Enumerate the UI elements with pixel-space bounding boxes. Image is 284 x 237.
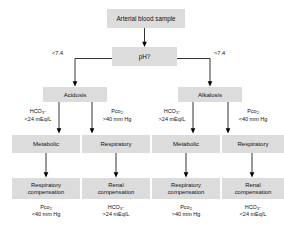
criterion-alkalosis-respiratory: Pco2 <40 mm Hg <box>233 108 273 123</box>
node-label: Alkalosis <box>198 91 222 98</box>
node-label: pH? <box>139 53 151 60</box>
node-respiratory-acidosis: Respiratory <box>82 135 150 153</box>
node-label: Respiratory <box>100 140 131 147</box>
node-label: Respiratory <box>237 140 268 147</box>
outcome-value-4: HCO3– <24 mEq/L <box>222 204 284 219</box>
node-label: Respiratorycompensation <box>168 182 205 196</box>
outcome-analyte: Pco2 <box>180 204 192 210</box>
node-label: Metabolic <box>33 140 59 147</box>
node-label: Respiratorycompensation <box>28 182 65 196</box>
criterion-analyte: HCO3– <box>30 108 47 114</box>
node-label: Renalcompensation <box>235 182 272 196</box>
node-label: Renalcompensation <box>98 182 135 196</box>
outcome-analyte: HCO3– <box>245 204 262 210</box>
node-respiratory-alkalosis: Respiratory <box>222 135 284 153</box>
node-ph-decision: pH? <box>112 47 177 66</box>
criterion-acidosis-metabolic: HCO3– <24 mEq/L <box>20 108 56 123</box>
node-metabolic-alkalosis: Metabolic <box>152 135 220 153</box>
criterion-analyte: Pco2 <box>247 108 259 114</box>
node-label: Arterial blood sample <box>116 15 175 22</box>
criterion-acidosis-respiratory: Pco2 >40 mm Hg <box>97 108 137 123</box>
outcome-analyte: HCO3– <box>108 204 125 210</box>
outcome-value-1: Pco2 <40 mm Hg <box>12 204 80 219</box>
criterion-threshold: >40 mm Hg <box>103 116 132 122</box>
node-compensation-4: Renalcompensation <box>222 178 284 199</box>
outcome-analyte: Pco2 <box>40 204 52 210</box>
outcome-threshold: >24 mEq/L <box>103 211 130 217</box>
edge-label-ph-high: >7.4 <box>214 50 225 56</box>
criterion-threshold: >24 mEq/L <box>159 116 186 122</box>
criterion-alkalosis-metabolic: HCO3– >24 mEq/L <box>154 108 190 123</box>
node-compensation-1: Respiratorycompensation <box>12 178 80 199</box>
outcome-threshold: <24 mEq/L <box>240 211 267 217</box>
node-alkalosis: Alkalosis <box>178 87 242 102</box>
outcome-value-2: HCO3– >24 mEq/L <box>82 204 150 219</box>
outcome-threshold: <40 mm Hg <box>32 211 61 217</box>
criterion-threshold: <40 mm Hg <box>239 116 268 122</box>
node-label: Acidosis <box>64 91 87 98</box>
node-label: Metabolic <box>173 140 199 147</box>
node-compensation-3: Respiratorycompensation <box>152 178 220 199</box>
edge-label-ph-low: <7.4 <box>52 50 63 56</box>
node-arterial-blood-sample: Arterial blood sample <box>107 9 185 28</box>
node-compensation-2: Renalcompensation <box>82 178 150 199</box>
node-metabolic-acidosis: Metabolic <box>12 135 80 153</box>
criterion-threshold: <24 mEq/L <box>25 116 52 122</box>
outcome-threshold: >40 mm Hg <box>172 211 201 217</box>
criterion-analyte: Pco2 <box>111 108 123 114</box>
node-acidosis: Acidosis <box>43 87 107 102</box>
outcome-value-3: Pco2 >40 mm Hg <box>152 204 220 219</box>
criterion-analyte: HCO3– <box>164 108 181 114</box>
